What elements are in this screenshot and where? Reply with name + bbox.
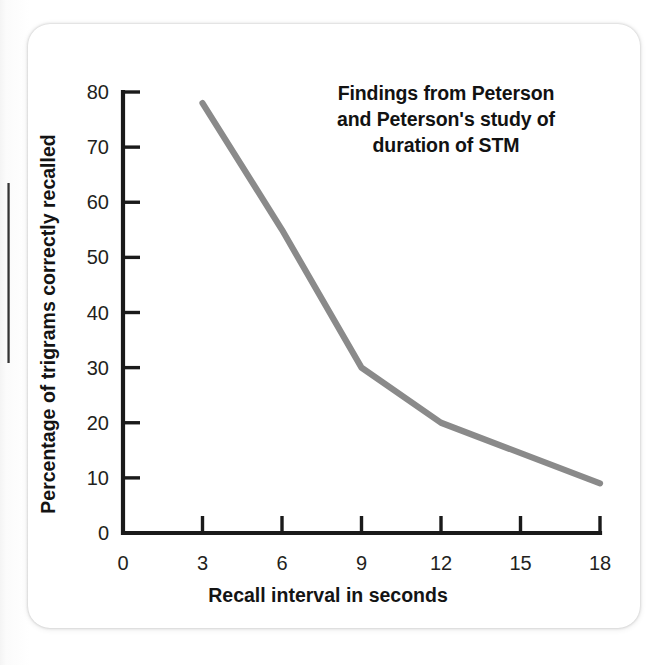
x-tick-label: 3 [197,552,208,574]
x-axis-title: Recall interval in seconds [208,584,448,606]
x-tick-label: 15 [509,552,531,574]
x-axis-ticks: 0369121518 [117,516,611,574]
y-tick-label: 50 [87,246,109,268]
chart-title: Findings from Petersonand Peterson's stu… [296,81,596,159]
data-series-group [203,103,601,483]
x-tick-label: 12 [430,552,452,574]
y-tick-label: 10 [87,467,109,489]
y-axis-ticks: 01020304050607080 [87,81,140,544]
y-tick-label: 30 [87,357,109,379]
y-tick-label: 70 [87,136,109,158]
chart-title-line: duration of STM [296,133,596,159]
chart-title-line: Findings from Peterson [296,81,596,107]
y-tick-label: 0 [98,522,109,544]
figure-card: 01020304050607080 0369121518 Percentage … [28,24,640,628]
page-edge-artifact [7,183,10,363]
chart-title-line: and Peterson's study of [296,107,596,133]
y-tick-label: 80 [87,81,109,103]
x-tick-label: 6 [276,552,287,574]
y-tick-label: 20 [87,412,109,434]
y-tick-label: 60 [87,191,109,213]
x-tick-label: 18 [589,552,611,574]
y-axis-title: Percentage of trigrams correctly recalle… [37,134,59,513]
y-tick-label: 40 [87,302,109,324]
data-line [203,103,601,483]
x-tick-label: 0 [117,552,128,574]
x-tick-label: 9 [356,552,367,574]
